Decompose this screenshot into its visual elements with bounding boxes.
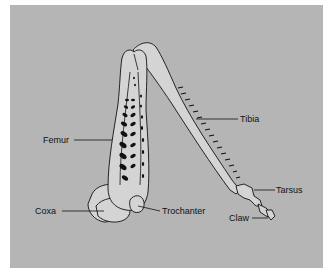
femur-label: Femur [43,136,69,145]
tarsus-label: Tarsus [276,186,303,195]
coxa-label: Coxa [35,207,56,216]
trochanter-label: Trochanter [162,207,205,216]
tibia-label: Tibia [240,115,259,124]
trochanter-segment [130,196,144,213]
femur-segment [108,50,149,210]
claw-label: Claw [229,214,249,223]
